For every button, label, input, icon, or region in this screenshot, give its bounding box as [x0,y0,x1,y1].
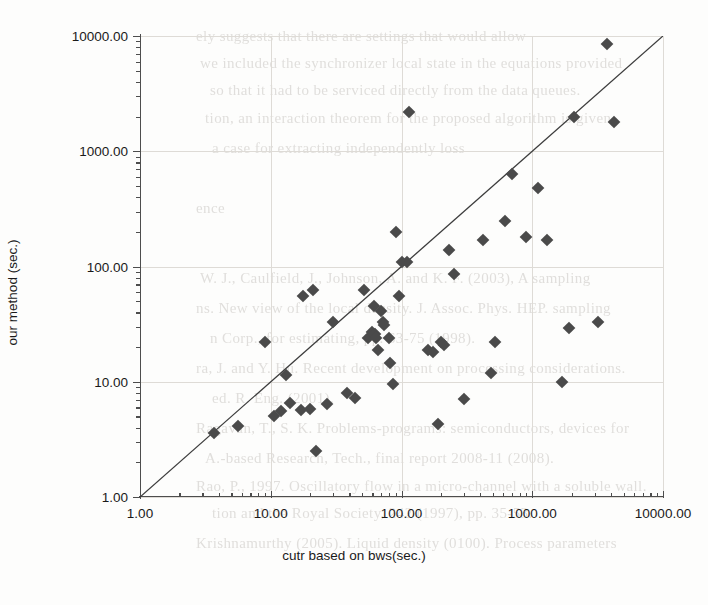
data-point [607,115,620,128]
x-tick-major [663,491,664,498]
data-point [372,343,385,356]
data-point [387,378,400,391]
data-point [600,38,613,51]
y-tick-major [133,382,140,383]
data-point [520,231,533,244]
y-tick-major [133,267,140,268]
data-point [458,393,471,406]
data-point [541,234,554,247]
data-point [403,105,416,118]
x-axis-title: cutr based on bws(sec.) [0,548,708,563]
data-point [296,290,309,303]
data-point [592,316,605,329]
data-point [499,214,512,227]
data-point [258,336,271,349]
data-point [309,445,322,458]
data-point [556,375,569,388]
data-point [358,284,371,297]
data-point [477,234,490,247]
data-point [304,403,317,416]
data-point [384,357,397,370]
y-tick-label: 1.00 [34,490,128,505]
data-point [562,322,575,335]
data-point [389,225,402,238]
y-axis-title: our method (sec.) [5,193,20,393]
data-point [531,182,544,195]
x-tick-label: 10000.00 [635,506,691,521]
y-tick-label: 10000.00 [34,29,128,44]
data-point [231,420,244,433]
data-point [506,168,519,181]
data-point [447,268,460,281]
y-tick-label: 1000.00 [34,144,128,159]
data-point [484,366,497,379]
data-point [427,346,440,359]
data-point [442,243,455,256]
data-points [140,36,663,497]
data-point [327,316,340,329]
x-tick-label: 1000.00 [508,506,557,521]
y-tick-major [133,497,140,498]
data-point [489,336,502,349]
y-tick-label: 100.00 [34,259,128,274]
x-tick-label: 1.00 [127,506,153,521]
data-point [279,368,292,381]
data-point [208,427,221,440]
scatter-plot-figure: ely suggests that there are settings tha… [0,0,708,605]
x-tick-label: 100.00 [381,506,422,521]
y-tick-label: 10.00 [34,374,128,389]
data-point [321,398,334,411]
data-point [382,332,395,345]
y-tick-major [133,151,140,152]
y-tick-major [133,36,140,37]
data-point [392,290,405,303]
data-point [283,397,296,410]
gridline-vertical [663,36,664,497]
data-point [432,418,445,431]
data-point [568,110,581,123]
x-tick-label: 10.00 [254,506,288,521]
